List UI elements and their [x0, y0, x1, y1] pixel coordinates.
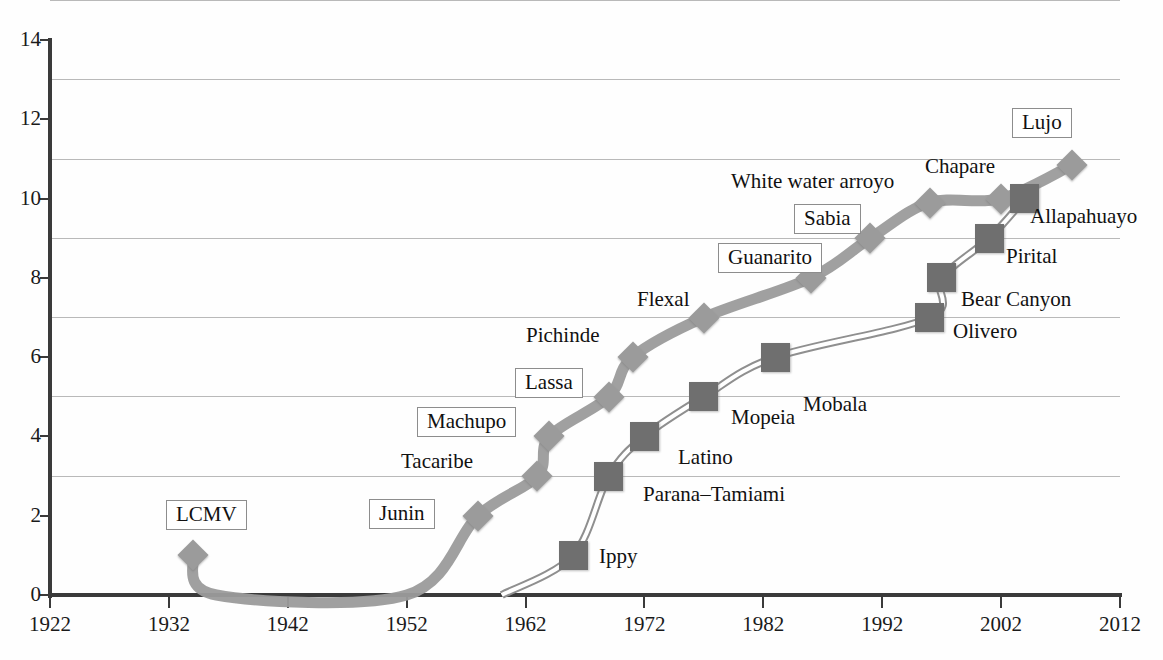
data-point-flexal — [688, 302, 719, 333]
label-pichinde: Pichinde — [526, 324, 600, 347]
x-tick-label: 1942 — [243, 613, 333, 635]
x-tick-label: 1962 — [481, 613, 571, 635]
x-tick-label: 1972 — [599, 613, 689, 635]
y-tick-label: 8 — [0, 267, 41, 288]
data-point-parana-tamiami — [594, 462, 623, 491]
data-point-junin — [462, 500, 493, 531]
x-tick — [762, 597, 764, 608]
data-point-lcmv — [177, 540, 208, 571]
label-lujo: Lujo — [1012, 108, 1072, 138]
y-tick-label: 0 — [0, 584, 41, 605]
data-point-olivero — [915, 303, 944, 332]
data-point-mobala — [761, 343, 790, 372]
label-chapare: Chapare — [925, 155, 995, 178]
x-tick — [525, 597, 527, 608]
x-axis-line — [48, 593, 1122, 597]
y-tick-label: 6 — [0, 346, 41, 367]
y-tick-label: 4 — [0, 425, 41, 446]
data-point-mopeia — [689, 382, 718, 411]
label-sabia: Sabia — [794, 204, 861, 234]
x-tick — [168, 597, 170, 608]
y-tick-label: 10 — [0, 188, 41, 209]
x-tick-label: 1982 — [718, 613, 808, 635]
x-tick-label: 1952 — [362, 613, 452, 635]
data-point-lujo — [1057, 149, 1088, 180]
label-lassa: Lassa — [515, 368, 583, 398]
x-tick — [643, 597, 645, 608]
label-olivero: Olivero — [953, 320, 1017, 343]
data-point-ippy — [559, 541, 588, 570]
y-tick-label: 2 — [0, 505, 41, 526]
y-tick-label: 14 — [0, 29, 41, 50]
data-point-bear-canyon — [927, 263, 956, 292]
gridline — [50, 317, 1120, 318]
series-line-new-world — [192, 165, 1072, 603]
x-tick-label: 2012 — [1075, 613, 1163, 635]
gridline — [50, 238, 1120, 239]
data-point-machupo — [534, 421, 565, 452]
gridline — [50, 396, 1120, 397]
gridline — [50, 79, 1120, 80]
label-white-water-arroyo: White water arroyo — [731, 170, 894, 193]
label-allapahuayo: Allapahuayo — [1030, 205, 1137, 228]
label-ippy: Ippy — [599, 545, 638, 568]
label-lcmv: LCMV — [166, 500, 247, 530]
label-guanarito: Guanarito — [718, 243, 822, 273]
label-bear-canyon: Bear Canyon — [961, 288, 1071, 311]
label-mopeia: Mopeia — [731, 406, 795, 429]
data-point-tacaribe — [522, 461, 553, 492]
x-tick-label: 1992 — [837, 613, 927, 635]
x-tick-label: 1922 — [5, 613, 95, 635]
data-point-pichinde — [617, 342, 648, 373]
data-point-pirital — [975, 224, 1004, 253]
label-pirital: Pirital — [1006, 245, 1057, 268]
data-point-latino — [630, 422, 659, 451]
arenavirus-discovery-chart: 02468101214 1922193219421952196219721982… — [0, 0, 1163, 660]
label-tacaribe: Tacaribe — [401, 450, 473, 473]
x-tick — [287, 597, 289, 608]
gridline — [50, 0, 1120, 1]
x-tick — [1119, 597, 1121, 608]
data-point-lassa — [593, 381, 624, 412]
x-tick-label: 1932 — [124, 613, 214, 635]
x-tick-label: 2002 — [956, 613, 1046, 635]
label-mobala: Mobala — [803, 393, 867, 416]
label-latino: Latino — [678, 446, 733, 469]
x-tick — [881, 597, 883, 608]
gridline — [50, 476, 1120, 477]
x-tick — [49, 597, 51, 608]
y-tick-label: 12 — [0, 108, 41, 129]
data-point-chapare — [914, 187, 945, 218]
x-tick — [406, 597, 408, 608]
label-junin: Junin — [369, 499, 435, 529]
x-tick — [1000, 597, 1002, 608]
y-axis-line — [48, 38, 52, 598]
label-parana-tamiami: Parana–Tamiami — [643, 483, 785, 506]
label-flexal: Flexal — [637, 288, 690, 311]
label-machupo: Machupo — [417, 407, 516, 437]
